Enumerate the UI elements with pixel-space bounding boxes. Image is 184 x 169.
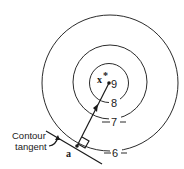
right-angle-marker	[78, 137, 89, 148]
tangent-line	[46, 131, 102, 164]
center-label-9: 9	[111, 78, 117, 90]
annotation-arrowhead-icon	[55, 135, 60, 140]
optimum-label-x: x	[97, 74, 102, 85]
contour-gradient-diagram: 6 7 8 9 x * a Contour tangent	[0, 0, 184, 169]
optimum-superscript: *	[103, 70, 108, 81]
annotation-contour: Contour	[12, 130, 46, 141]
annotation-tangent: tangent	[15, 141, 47, 152]
point-a-dot	[75, 144, 79, 148]
contour-label-7: 7	[111, 116, 117, 128]
contour-label-8: 8	[111, 97, 117, 109]
point-a-label: a	[66, 148, 71, 159]
contour-label-6: 6	[112, 147, 118, 159]
gradient-line	[77, 83, 109, 146]
